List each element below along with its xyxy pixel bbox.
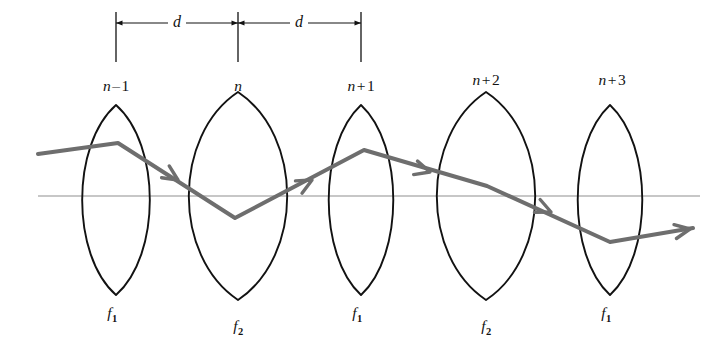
dimension-line-group xyxy=(116,12,361,62)
lens-node-label-3: n+1 xyxy=(347,78,374,94)
node-operator-5: + xyxy=(606,71,618,88)
focal-subscript-1: 1 xyxy=(112,313,117,324)
node-index-symbol-3: n xyxy=(347,77,355,94)
focal-length-label-3: f1 xyxy=(352,305,362,321)
dimension-arrowhead-3 xyxy=(355,20,362,25)
focal-subscript-5: 1 xyxy=(606,313,611,324)
node-offset-1: 1 xyxy=(121,77,129,94)
focal-symbol-1: f xyxy=(107,304,111,321)
focal-symbol-3: f xyxy=(352,304,356,321)
node-operator-4: + xyxy=(480,71,492,88)
focal-length-label-2: f2 xyxy=(233,318,243,334)
focal-subscript-3: 1 xyxy=(357,313,362,324)
focal-length-label-5: f1 xyxy=(601,305,611,321)
dimension-arrowhead-1 xyxy=(232,20,239,25)
dimension-label-d-2: d xyxy=(290,14,308,30)
focal-length-label-1: f1 xyxy=(107,305,117,321)
focal-subscript-4: 2 xyxy=(486,326,491,337)
node-index-symbol-2: n xyxy=(234,77,242,94)
focal-length-label-4: f2 xyxy=(481,318,491,334)
lens-node-label-2: n xyxy=(234,78,242,94)
node-index-symbol-5: n xyxy=(598,71,606,88)
lens-node-label-1: n–1 xyxy=(103,78,129,94)
lens-outline-3 xyxy=(329,105,394,295)
focal-symbol-5: f xyxy=(601,304,605,321)
diagram-canvas xyxy=(0,0,725,352)
dimension-arrowhead-2 xyxy=(238,20,245,25)
dimension-label-d-1: d xyxy=(168,14,186,30)
node-index-symbol-1: n xyxy=(103,77,111,94)
node-offset-4: 2 xyxy=(492,71,500,88)
ray-diagram-figure: ddn–1f1nf2n+1f1n+2f2n+3f1 xyxy=(0,0,725,352)
lens-outline-1 xyxy=(82,105,150,295)
node-offset-3: 1 xyxy=(367,77,375,94)
ray-polyline xyxy=(38,143,693,242)
lens-node-label-5: n+3 xyxy=(598,72,625,88)
node-index-symbol-4: n xyxy=(472,71,480,88)
node-offset-5: 3 xyxy=(618,71,626,88)
focal-symbol-2: f xyxy=(233,317,237,334)
dimension-arrowhead-0 xyxy=(116,20,123,25)
focal-symbol-4: f xyxy=(481,317,485,334)
ray-path-group xyxy=(38,143,693,242)
lens-node-label-4: n+2 xyxy=(472,72,499,88)
lens-outline-5 xyxy=(578,105,643,295)
node-operator-1: – xyxy=(111,77,122,94)
focal-subscript-2: 2 xyxy=(238,326,243,337)
node-operator-3: + xyxy=(355,77,367,94)
